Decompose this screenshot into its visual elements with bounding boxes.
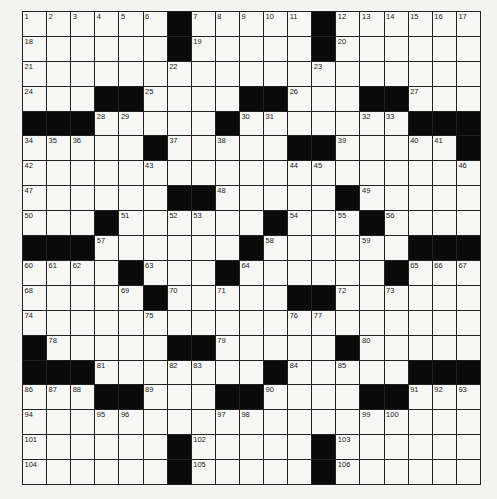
grid-cell[interactable] (288, 236, 311, 260)
grid-cell[interactable] (95, 435, 118, 459)
grid-cell[interactable]: 28 (95, 112, 118, 136)
grid-cell[interactable]: 53 (192, 211, 215, 235)
grid-cell[interactable] (433, 87, 456, 111)
grid-cell[interactable] (119, 62, 142, 86)
grid-cell[interactable] (288, 460, 311, 484)
grid-cell[interactable] (433, 435, 456, 459)
grid-cell[interactable] (312, 385, 335, 409)
grid-cell[interactable] (240, 336, 263, 360)
grid-cell[interactable] (264, 286, 287, 310)
grid-cell[interactable] (95, 460, 118, 484)
grid-cell[interactable] (433, 286, 456, 310)
grid-cell[interactable] (264, 410, 287, 434)
grid-cell[interactable] (360, 136, 383, 160)
grid-cell[interactable] (433, 161, 456, 185)
grid-cell[interactable] (47, 311, 70, 335)
grid-cell[interactable] (336, 311, 359, 335)
grid-cell[interactable]: 51 (119, 211, 142, 235)
grid-cell[interactable] (95, 286, 118, 310)
grid-cell[interactable]: 77 (312, 311, 335, 335)
grid-cell[interactable] (312, 336, 335, 360)
grid-cell[interactable]: 73 (385, 286, 408, 310)
grid-cell[interactable] (216, 37, 239, 61)
grid-cell[interactable] (216, 460, 239, 484)
grid-cell[interactable]: 3 (71, 12, 94, 36)
grid-cell[interactable]: 46 (457, 161, 480, 185)
grid-cell[interactable] (360, 161, 383, 185)
grid-cell[interactable] (216, 211, 239, 235)
grid-cell[interactable]: 16 (433, 12, 456, 36)
grid-cell[interactable] (168, 410, 191, 434)
grid-cell[interactable]: 31 (264, 112, 287, 136)
grid-cell[interactable] (433, 186, 456, 210)
grid-cell[interactable] (385, 361, 408, 385)
grid-cell[interactable] (264, 336, 287, 360)
grid-cell[interactable] (457, 286, 480, 310)
grid-cell[interactable] (312, 186, 335, 210)
grid-cell[interactable]: 26 (288, 87, 311, 111)
grid-cell[interactable] (433, 460, 456, 484)
grid-cell[interactable] (71, 62, 94, 86)
grid-cell[interactable]: 70 (168, 286, 191, 310)
grid-cell[interactable]: 96 (119, 410, 142, 434)
grid-cell[interactable]: 8 (216, 12, 239, 36)
grid-cell[interactable] (433, 410, 456, 434)
grid-cell[interactable]: 81 (95, 361, 118, 385)
grid-cell[interactable] (192, 87, 215, 111)
grid-cell[interactable] (433, 336, 456, 360)
grid-cell[interactable]: 7 (192, 12, 215, 36)
grid-cell[interactable] (95, 336, 118, 360)
grid-cell[interactable]: 99 (360, 410, 383, 434)
grid-cell[interactable]: 32 (360, 112, 383, 136)
grid-cell[interactable] (95, 261, 118, 285)
grid-cell[interactable]: 71 (216, 286, 239, 310)
grid-cell[interactable] (312, 261, 335, 285)
grid-cell[interactable] (433, 62, 456, 86)
grid-cell[interactable]: 83 (192, 361, 215, 385)
grid-cell[interactable]: 72 (336, 286, 359, 310)
grid-cell[interactable]: 35 (47, 136, 70, 160)
grid-cell[interactable] (312, 361, 335, 385)
grid-cell[interactable] (336, 236, 359, 260)
grid-cell[interactable] (264, 311, 287, 335)
grid-cell[interactable]: 6 (144, 12, 167, 36)
grid-cell[interactable]: 40 (409, 136, 432, 160)
grid-cell[interactable] (409, 410, 432, 434)
grid-cell[interactable] (264, 261, 287, 285)
grid-cell[interactable]: 49 (360, 186, 383, 210)
grid-cell[interactable] (119, 37, 142, 61)
grid-cell[interactable] (360, 261, 383, 285)
grid-cell[interactable] (71, 435, 94, 459)
grid-cell[interactable]: 61 (47, 261, 70, 285)
grid-cell[interactable] (288, 37, 311, 61)
grid-cell[interactable]: 101 (23, 435, 46, 459)
grid-cell[interactable] (240, 460, 263, 484)
grid-cell[interactable]: 74 (23, 311, 46, 335)
grid-cell[interactable] (457, 311, 480, 335)
grid-cell[interactable]: 19 (192, 37, 215, 61)
grid-cell[interactable] (119, 435, 142, 459)
grid-cell[interactable]: 97 (216, 410, 239, 434)
grid-cell[interactable] (47, 410, 70, 434)
grid-cell[interactable] (360, 311, 383, 335)
grid-cell[interactable]: 5 (119, 12, 142, 36)
grid-cell[interactable] (95, 62, 118, 86)
grid-cell[interactable] (216, 361, 239, 385)
grid-cell[interactable] (264, 460, 287, 484)
grid-cell[interactable] (240, 62, 263, 86)
grid-cell[interactable]: 10 (264, 12, 287, 36)
grid-cell[interactable] (71, 161, 94, 185)
grid-cell[interactable]: 33 (385, 112, 408, 136)
grid-cell[interactable] (433, 311, 456, 335)
grid-cell[interactable] (71, 460, 94, 484)
grid-cell[interactable]: 15 (409, 12, 432, 36)
grid-cell[interactable] (144, 410, 167, 434)
grid-cell[interactable] (409, 37, 432, 61)
grid-cell[interactable] (240, 435, 263, 459)
grid-cell[interactable]: 87 (47, 385, 70, 409)
grid-cell[interactable]: 9 (240, 12, 263, 36)
grid-cell[interactable]: 84 (288, 361, 311, 385)
grid-cell[interactable]: 79 (216, 336, 239, 360)
grid-cell[interactable]: 25 (144, 87, 167, 111)
grid-cell[interactable]: 37 (168, 136, 191, 160)
